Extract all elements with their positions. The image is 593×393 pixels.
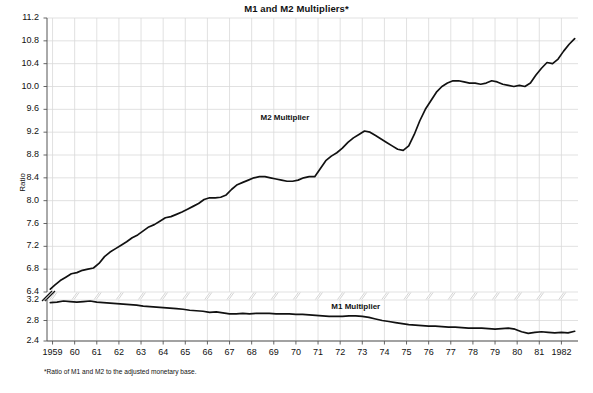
chart-footnote: *Ratio of M1 and M2 to the adjusted mone…: [44, 368, 196, 375]
y-tick-label: 6.8: [3, 263, 39, 273]
y-tick-label: 7.6: [3, 218, 39, 228]
y-tick-label: 8.0: [3, 195, 39, 205]
series-label-m1-multiplier: M1 Multiplier: [331, 302, 380, 311]
series-label-m2-multiplier: M2 Multiplier: [261, 113, 310, 122]
y-tick-label: 3.2: [3, 294, 39, 304]
y-tick-label: 8.4: [3, 172, 39, 182]
series-line-m1-multiplier: [50, 301, 574, 333]
y-tick-label: 10.4: [3, 58, 39, 68]
y-tick-label: 2.8: [3, 315, 39, 325]
x-tick-label: 1982: [546, 347, 576, 357]
y-tick-label: 11.2: [3, 12, 39, 22]
chart-title: M1 and M2 Multipliers*: [0, 3, 593, 14]
y-tick-label: 2.4: [3, 335, 39, 345]
plot-area: [0, 0, 593, 393]
y-tick-label: 9.6: [3, 103, 39, 113]
y-tick-label: 7.2: [3, 240, 39, 250]
data-series-lines: [50, 39, 574, 334]
y-tick-label: 8.8: [3, 149, 39, 159]
y-tick-label: 10.8: [3, 35, 39, 45]
chart-figure: M1 and M2 Multipliers* Ratio 11.210.810.…: [0, 0, 593, 393]
axis-break-marks: [42, 291, 566, 301]
grid-lines: [47, 18, 578, 341]
y-tick-label: 10.0: [3, 81, 39, 91]
axis-frame: [44, 18, 579, 345]
series-line-m2-multiplier: [50, 39, 574, 290]
y-tick-label: 9.2: [3, 126, 39, 136]
